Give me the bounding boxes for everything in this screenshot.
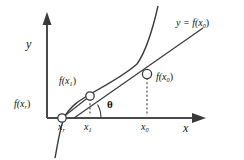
marker-initial-guess-point [142,69,151,78]
value-label-first-iterate-main: f(x [59,75,70,86]
secant-method-figure: y x y = f(x0) f(xr) f(x1) f(x0) θ xr x1 … [0,0,244,160]
curve-equation-main: y = f(x [176,17,203,28]
curve-equation-label: y = f(x0) [176,18,209,29]
theta-angle-arc [98,105,102,119]
x-tick-label-initial-guess: x0 [141,122,149,133]
value-label-initial-guess-main: f(x [156,71,167,82]
value-label-first-iterate-close: ) [73,75,76,86]
marker-first-iterate-point [86,92,94,100]
value-label-root-main: f(x [14,98,25,109]
y-axis-arrowhead [43,12,52,25]
x-tick-label-first-iterate: x1 [84,122,92,133]
x-axis-arrowhead [192,113,206,123]
secant-line [74,28,203,118]
x-tick-label-root: xr [58,122,65,133]
value-label-root: f(xr) [14,99,30,110]
value-label-root-close: ) [27,98,30,109]
theta-label: θ [107,99,113,110]
value-label-first-iterate: f(x1) [59,76,76,87]
value-label-initial-guess: f(x0) [156,72,173,83]
x-axis-label: x [183,122,188,134]
y-axis-label: y [26,38,31,50]
curve-equation-close: ) [206,17,209,28]
x-tick-label-first-iterate-sub: 1 [88,126,91,133]
x-tick-label-initial-guess-sub: 0 [145,126,148,133]
chord-root-to-x1 [62,96,90,118]
x-tick-label-root-sub: r [62,126,64,133]
value-label-initial-guess-close: ) [170,71,173,82]
